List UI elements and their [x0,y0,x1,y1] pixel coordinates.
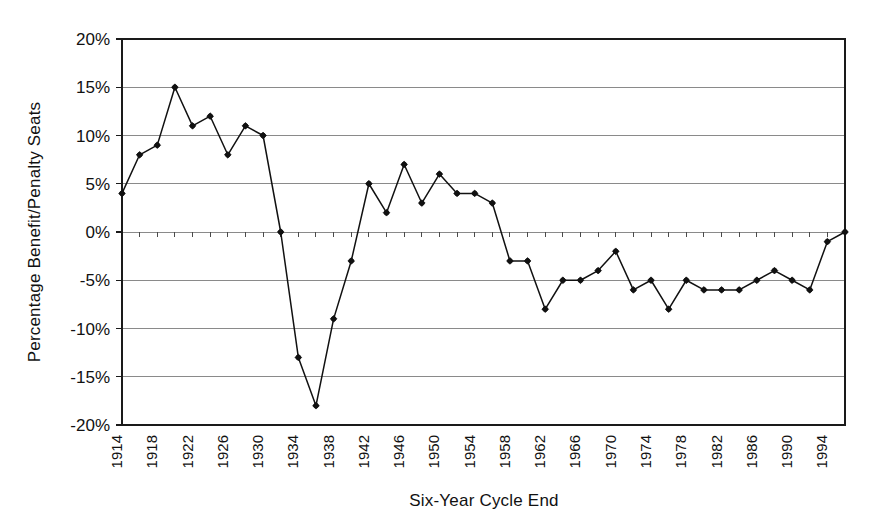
line-chart: 20%15%10%5%0%-5%-10%-15%-20% 19141918192… [0,0,874,531]
data-point-core [525,259,530,264]
data-point-core [825,239,830,244]
y-tick-label: -10% [70,320,110,339]
data-point-core [737,288,742,293]
data-point-core [349,259,354,264]
x-tick-label: 1986 [743,435,760,468]
data-point-core [490,201,495,206]
x-tick-label: 1978 [672,435,689,468]
x-axis-ticks [122,232,845,237]
y-axis-ticks [116,39,122,425]
y-axis-tick-labels: 20%15%10%5%0%-5%-10%-15%-20% [70,30,110,435]
x-axis-tick-labels: 1914191819221926193019341938194219461950… [108,435,830,468]
data-point-core [437,172,442,177]
data-point-core [366,181,371,186]
x-tick-label: 1954 [461,435,478,468]
x-axis-title: Six-Year Cycle End [409,491,558,510]
y-tick-label: -20% [70,416,110,435]
data-point-core [631,288,636,293]
data-point-core [807,288,812,293]
data-point-core [666,307,671,312]
data-point-core [560,278,565,283]
data-point-core [173,85,178,90]
data-point-core [331,316,336,321]
x-tick-label: 1918 [143,435,160,468]
x-tick-label: 1946 [390,435,407,468]
data-point-core [613,249,618,254]
data-point-core [772,268,777,273]
x-tick-label: 1934 [284,435,301,468]
data-point-core [384,210,389,215]
x-tick-label: 1926 [214,435,231,468]
data-point-core [155,143,160,148]
data-point-core [402,162,407,167]
x-tick-label: 1974 [637,435,654,468]
data-point-markers [119,84,849,409]
y-tick-label: 10% [76,127,110,146]
x-tick-label: 1938 [320,435,337,468]
data-point-core [120,191,125,196]
y-tick-label: 20% [76,30,110,49]
data-point-core [137,152,142,157]
data-point-core [754,278,759,283]
data-point-core [843,230,848,235]
data-point-core [278,230,283,235]
y-tick-label: 5% [85,175,110,194]
x-tick-label: 1922 [179,435,196,468]
data-point-core [243,123,248,128]
data-point-core [314,403,319,408]
data-point-core [455,191,460,196]
data-point-core [649,278,654,283]
y-tick-label: -5% [80,271,110,290]
y-tick-label: 0% [85,223,110,242]
data-point-core [684,278,689,283]
x-tick-label: 1930 [249,435,266,468]
data-point-core [190,123,195,128]
x-tick-label: 1958 [496,435,513,468]
data-point-core [472,191,477,196]
y-tick-label: -15% [70,368,110,387]
chart-container: 20%15%10%5%0%-5%-10%-15%-20% 19141918192… [0,0,874,531]
x-tick-label: 1966 [566,435,583,468]
gridlines [122,87,845,377]
x-tick-label: 1970 [602,435,619,468]
data-point-core [578,278,583,283]
x-tick-label: 1982 [708,435,725,468]
data-point-core [508,259,513,264]
y-axis-title: Percentage Benefit/Penalty Seats [25,102,44,363]
y-tick-label: 15% [76,78,110,97]
data-point-core [419,201,424,206]
x-tick-label: 1950 [425,435,442,468]
x-tick-label: 1994 [813,435,830,468]
data-point-core [596,268,601,273]
x-tick-label: 1914 [108,435,125,468]
data-point-core [296,355,301,360]
x-tick-label: 1962 [531,435,548,468]
x-tick-label: 1990 [778,435,795,468]
data-point-core [225,152,230,157]
data-point-core [790,278,795,283]
x-tick-label: 1942 [355,435,372,468]
data-point-core [208,114,213,119]
data-point-core [719,288,724,293]
data-point-core [702,288,707,293]
data-point-core [543,307,548,312]
data-point-core [261,133,266,138]
